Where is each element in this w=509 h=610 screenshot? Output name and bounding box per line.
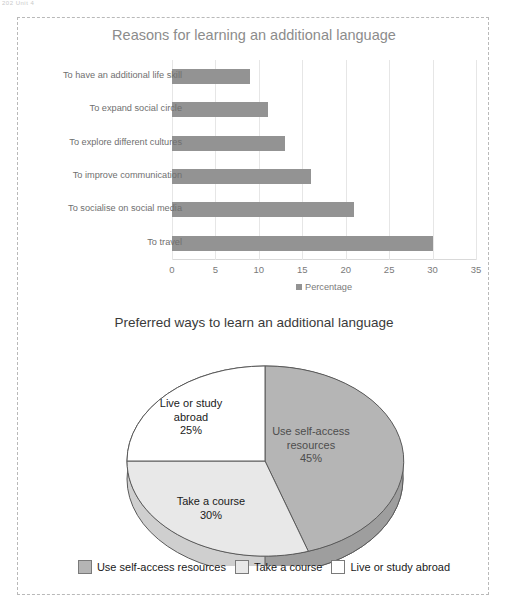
pie-legend-label: Use self-access resources xyxy=(97,561,226,573)
bar-category-label: To travel xyxy=(0,237,182,247)
x-axis-tick: 25 xyxy=(384,264,395,275)
bar-row xyxy=(172,93,476,126)
bar-category-label: To socialise on social media xyxy=(0,203,182,213)
pie-label-live-or-study-abroad: Live or study abroad 25% xyxy=(126,397,256,438)
bar-chart-legend: Percentage xyxy=(172,282,476,292)
figure-frame: Reasons for learning an additional langu… xyxy=(17,17,489,595)
x-axis-tick: 0 xyxy=(169,264,174,275)
page-corner-artifact: 202 Unit 4 xyxy=(2,0,34,6)
bar-category-label: To expand social circle xyxy=(0,103,182,113)
bar-category-label: To have an additional life skill xyxy=(0,70,182,80)
bar-chart-title: Reasons for learning an additional langu… xyxy=(18,27,490,43)
pie-legend-label: Live or study abroad xyxy=(350,561,450,573)
bar-row xyxy=(172,193,476,226)
bar-row xyxy=(172,227,476,260)
pie-legend-item: Live or study abroad xyxy=(331,560,450,574)
pie-legend-label: Take a course xyxy=(254,561,322,573)
x-axis-tick: 5 xyxy=(213,264,218,275)
bar-row xyxy=(172,127,476,160)
pie-label-use-self-access-resources: Use self-access resources 45% xyxy=(246,425,376,466)
bar xyxy=(172,69,250,84)
x-axis-tick: 10 xyxy=(254,264,265,275)
pie-chart-title: Preferred ways to learn an additional la… xyxy=(82,314,426,331)
pie-legend-item: Use self-access resources xyxy=(78,560,226,574)
bar xyxy=(172,236,433,251)
pie-chart: Preferred ways to learn an additional la… xyxy=(18,310,490,596)
bar xyxy=(172,202,354,217)
bar-category-label: To improve communication xyxy=(0,170,182,180)
x-axis-tick: 15 xyxy=(297,264,308,275)
x-axis-tick: 35 xyxy=(471,264,482,275)
pie-legend-swatch xyxy=(235,560,249,574)
bar xyxy=(172,169,311,184)
bar xyxy=(172,136,285,151)
legend-swatch-percentage xyxy=(296,284,302,290)
gridline xyxy=(476,60,477,260)
pie-legend-item: Take a course xyxy=(235,560,322,574)
x-axis-tick: 30 xyxy=(427,264,438,275)
bar-row xyxy=(172,60,476,93)
pie-legend-swatch xyxy=(331,560,345,574)
bar-category-label: To explore different cultures xyxy=(0,137,182,147)
bar xyxy=(172,102,268,117)
page-root: 202 Unit 4 Reasons for learning an addit… xyxy=(0,0,509,610)
pie-chart-legend: Use self-access resourcesTake a courseLi… xyxy=(48,560,480,574)
bar-chart-plot-area xyxy=(172,60,476,260)
bar-row xyxy=(172,160,476,193)
pie-label-take-a-course: Take a course 30% xyxy=(146,495,276,522)
x-axis-tick: 20 xyxy=(340,264,351,275)
bar-chart: Reasons for learning an additional langu… xyxy=(18,18,490,308)
pie-legend-swatch xyxy=(78,560,92,574)
legend-label-percentage: Percentage xyxy=(305,282,352,292)
